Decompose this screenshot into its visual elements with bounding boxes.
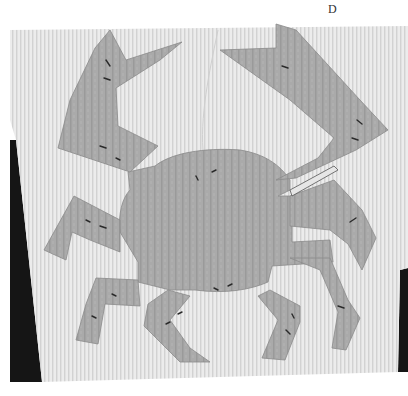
crab-applique-photo bbox=[0, 0, 408, 396]
